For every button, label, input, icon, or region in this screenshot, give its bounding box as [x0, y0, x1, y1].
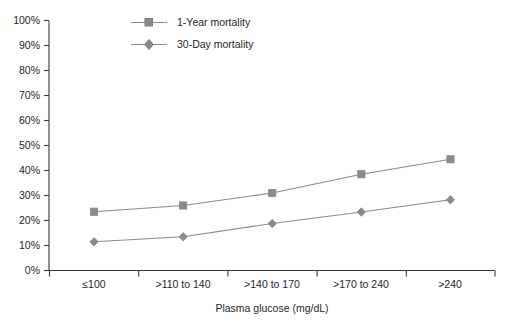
y-tick-label: 40% [19, 164, 40, 176]
diamond-marker-icon [145, 40, 154, 50]
x-axis-ticks [50, 271, 496, 277]
y-axis-tick-labels: 100% 90% 80% 70% 60% 50% 40% 30% 20% 10%… [13, 14, 40, 276]
diamond-data-point [179, 233, 187, 241]
legend-item-30-day-mortality[interactable]: 30-Day mortality [131, 38, 254, 50]
square-data-point [90, 208, 97, 215]
square-data-point [269, 189, 276, 196]
y-tick-label: 100% [13, 14, 40, 26]
diamond-data-point [90, 238, 98, 246]
series-30-day-mortality [90, 196, 455, 246]
legend-label: 1-Year mortality [177, 16, 251, 28]
square-marker-icon [145, 19, 153, 27]
chart-legend: 1-Year mortality 30-Day mortality [131, 16, 254, 50]
square-data-point [447, 156, 454, 163]
diamond-data-point [357, 208, 365, 216]
y-tick-label: 70% [19, 89, 40, 101]
diamond-data-point [268, 219, 276, 227]
y-tick-label: 20% [19, 214, 40, 226]
y-tick-label: 90% [19, 39, 40, 51]
y-tick-label: 60% [19, 114, 40, 126]
legend-item-1-year-mortality[interactable]: 1-Year mortality [131, 16, 251, 28]
x-tick-label: ≤100 [82, 278, 105, 290]
y-tick-label: 80% [19, 64, 40, 76]
x-axis-tick-labels: ≤100 >110 to 140 >140 to 170 >170 to 240… [82, 278, 462, 290]
y-tick-label: 30% [19, 189, 40, 201]
legend-label: 30-Day mortality [177, 38, 254, 50]
y-tick-label: 10% [19, 239, 40, 251]
x-tick-label: >170 to 240 [333, 278, 389, 290]
y-axis-ticks [44, 21, 49, 271]
square-data-point [180, 202, 187, 209]
diamond-data-point [446, 196, 454, 204]
x-axis-title: Plasma glucose (mg/dL) [215, 302, 328, 314]
line-chart: 100% 90% 80% 70% 60% 50% 40% 30% 20% 10%… [0, 0, 512, 321]
x-tick-label: >240 [438, 278, 462, 290]
y-tick-label: 0% [25, 264, 40, 276]
x-tick-label: >110 to 140 [156, 278, 211, 290]
chart-canvas: 100% 90% 80% 70% 60% 50% 40% 30% 20% 10%… [0, 0, 512, 321]
x-tick-label: >140 to 170 [244, 278, 300, 290]
y-tick-label: 50% [19, 139, 40, 151]
square-data-point [358, 171, 365, 178]
